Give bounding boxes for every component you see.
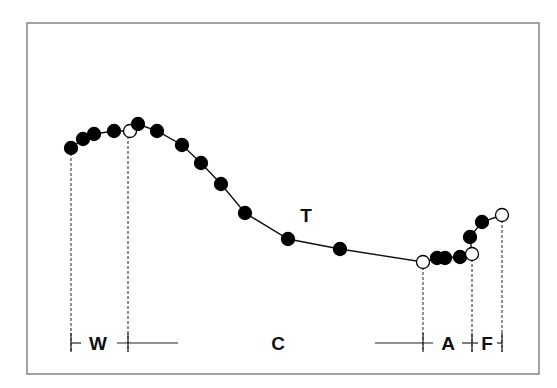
filled-data-point [195, 157, 208, 170]
filled-data-point [215, 178, 228, 191]
phase-label-w: W [89, 333, 107, 354]
data-points [65, 118, 509, 269]
phase-brackets [71, 333, 502, 352]
filled-data-point [464, 231, 477, 244]
open-data-point [466, 248, 479, 261]
filled-data-point [239, 207, 252, 220]
filled-data-point [65, 142, 78, 155]
diagram-frame [27, 23, 539, 374]
filled-data-point [88, 128, 101, 141]
phase-diagram: T WCAF [0, 0, 557, 388]
filled-data-point [282, 233, 295, 246]
filled-data-point [151, 125, 164, 138]
filled-data-point [132, 118, 145, 131]
filled-data-point [454, 251, 467, 264]
phase-label-f: F [481, 333, 493, 354]
curve-label-t: T [300, 205, 312, 226]
filled-data-point [439, 252, 452, 265]
filled-data-point [476, 216, 489, 229]
phase-label-c: C [271, 333, 285, 354]
open-data-point [417, 256, 430, 269]
filled-data-point [108, 125, 121, 138]
phase-label-a: A [441, 333, 455, 354]
open-data-point [496, 209, 509, 222]
filled-data-point [334, 243, 347, 256]
filled-data-point [176, 139, 189, 152]
